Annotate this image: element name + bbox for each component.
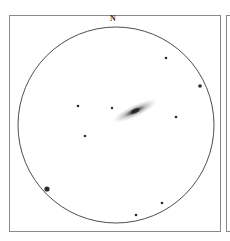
star-icon bbox=[84, 135, 87, 138]
star-icon bbox=[165, 57, 168, 60]
star-icon bbox=[161, 202, 164, 205]
star-icon bbox=[175, 116, 178, 119]
field-of-view-circle bbox=[18, 27, 214, 223]
star-icon bbox=[135, 214, 138, 217]
star-icon bbox=[44, 186, 49, 191]
star-icon bbox=[111, 107, 113, 109]
eyepiece-sketch bbox=[0, 0, 230, 241]
north-label: N bbox=[110, 15, 116, 23]
star-icon bbox=[198, 84, 202, 88]
star-icon bbox=[77, 105, 80, 108]
galaxy-icon bbox=[109, 94, 162, 128]
star-field bbox=[44, 57, 201, 217]
